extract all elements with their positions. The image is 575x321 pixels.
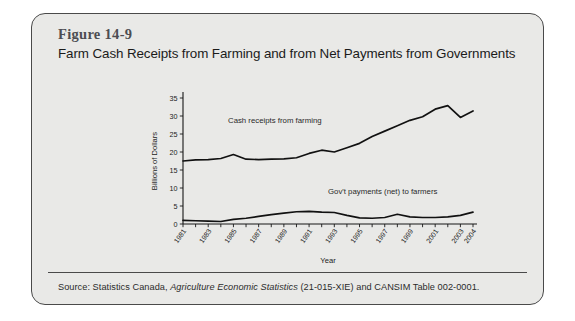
svg-text:1997: 1997 [374, 227, 389, 244]
svg-text:20: 20 [170, 148, 178, 157]
svg-text:1993: 1993 [324, 227, 339, 244]
svg-text:1995: 1995 [349, 227, 364, 244]
series-annotation-1: Gov't payments (net) to farmers [328, 187, 437, 196]
svg-text:1983: 1983 [198, 227, 213, 244]
svg-text:30: 30 [170, 112, 178, 121]
svg-text:1991: 1991 [299, 227, 314, 244]
svg-text:15: 15 [170, 166, 178, 175]
svg-text:5: 5 [174, 202, 178, 211]
chart-series [183, 106, 473, 222]
y-axis: 05101520253035Billions of Dollars [150, 92, 183, 229]
svg-text:25: 25 [170, 130, 178, 139]
svg-text:1999: 1999 [400, 227, 415, 244]
svg-text:2001: 2001 [425, 227, 440, 244]
source-note: Source: Statistics Canada, Agriculture E… [58, 282, 525, 292]
figure-number: Figure 14-9 [58, 26, 525, 43]
svg-text:1989: 1989 [274, 227, 289, 244]
series-line-1 [183, 211, 473, 221]
line-chart: 05101520253035Billions of Dollars 198119… [32, 66, 543, 266]
figure-header: Figure 14-9 Farm Cash Receipts from Farm… [58, 26, 525, 61]
series-annotation-0: Cash receipts from farming [228, 116, 322, 125]
svg-text:1981: 1981 [173, 227, 188, 244]
svg-text:1987: 1987 [248, 227, 263, 244]
source-publication: Agriculture Economic Statistics [170, 282, 298, 292]
source-suffix: (21-015-XIE) and CANSIM Table 002-0001. [298, 282, 480, 292]
svg-text:35: 35 [170, 94, 178, 103]
chart-plot-area: 05101520253035Billions of Dollars 198119… [32, 66, 543, 266]
x-axis: 1981198319851987198919911993199519971999… [173, 224, 478, 265]
svg-text:Year: Year [320, 256, 336, 265]
figure-frame: Figure 14-9 Farm Cash Receipts from Farm… [31, 13, 544, 305]
svg-text:0: 0 [174, 220, 178, 229]
svg-text:Billions of Dollars: Billions of Dollars [150, 132, 159, 190]
svg-text:10: 10 [170, 184, 178, 193]
svg-text:2004: 2004 [463, 227, 478, 244]
series-annotations: Cash receipts from farmingGov't payments… [228, 116, 437, 196]
figure-title: Farm Cash Receipts from Farming and from… [58, 46, 525, 61]
source-prefix: Source: Statistics Canada, [58, 282, 170, 292]
series-line-0 [183, 106, 473, 161]
footer-divider [48, 272, 527, 273]
svg-text:1985: 1985 [223, 227, 238, 244]
svg-text:2003: 2003 [450, 227, 465, 244]
